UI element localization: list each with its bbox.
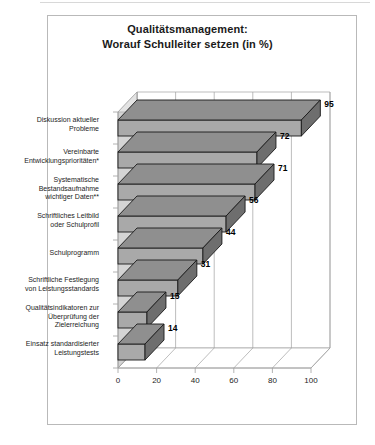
bar-value-label: 44 [226, 227, 235, 237]
x-tick-label: 40 [183, 376, 207, 385]
bar-value-label: 71 [278, 163, 287, 173]
category-label: VereinbarteEntwicklungsprioritäten* [24, 148, 99, 165]
category-label-line: Überprüfung der [25, 313, 99, 322]
bar-value-label: 14 [168, 323, 177, 333]
category-label: Schriftliche Festlegungvon Leistungsstan… [25, 276, 99, 293]
category-label-line: von Leistungsstandards [25, 285, 99, 294]
category-label-line: Schriftliche Festlegung [25, 276, 99, 285]
bar-value-label: 56 [249, 195, 258, 205]
category-label-line: Probleme [37, 125, 99, 134]
bar-value-label: 95 [324, 99, 333, 109]
category-label-line: Entwicklungsprioritäten* [24, 157, 99, 166]
category-label-line: wichtiger Daten** [39, 193, 99, 202]
category-label: SystematischeBestandsaufnahmewichtiger D… [39, 176, 99, 202]
category-label: Diskussion aktuellerProbleme [37, 116, 99, 133]
category-label-line: Bestandsaufnahme [39, 185, 99, 194]
category-label-line: Schulprogramm [50, 249, 99, 258]
category-label-line: Leistungstests [26, 349, 99, 358]
x-tick-label: 100 [299, 376, 323, 385]
bar-value-label: 31 [201, 259, 210, 269]
category-label-line: oder Schulprofil [37, 221, 99, 230]
bar-value-label: 15 [170, 291, 179, 301]
category-label-line: Zielerreichung [25, 321, 99, 330]
category-label-line: Vereinbarte [24, 148, 99, 157]
bar [118, 132, 276, 168]
bar-value-label: 72 [280, 131, 289, 141]
category-label-line: Einsatz standardisierter [26, 340, 99, 349]
category-label: Schulprogramm [50, 249, 99, 258]
category-label-line: Systematische [39, 176, 99, 185]
bar [118, 100, 320, 136]
category-label-line: Qualitätsindikatoren zur [25, 304, 99, 313]
x-tick-label: 80 [260, 376, 284, 385]
x-tick-label: 20 [145, 376, 169, 385]
category-label-line: Schriftliches Leitbild [37, 212, 99, 221]
x-tick-label: 0 [106, 376, 130, 385]
category-label: Qualitätsindikatoren zurÜberprüfung derZ… [25, 304, 99, 330]
category-label: Schriftliches Leitbildoder Schulprofil [37, 212, 99, 229]
x-tick-label: 60 [222, 376, 246, 385]
category-label-line: Diskussion aktueller [37, 116, 99, 125]
category-label: Einsatz standardisierterLeistungstests [26, 340, 99, 357]
